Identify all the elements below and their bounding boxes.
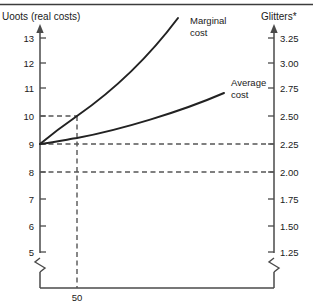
left-tick-label-5: 5 (29, 247, 34, 258)
left-tick-label-9: 9 (29, 139, 34, 150)
right-axis-title: Glitters* (261, 11, 297, 22)
left-tick-label-6: 6 (29, 221, 34, 232)
left-tick-label-11: 11 (24, 83, 34, 94)
right-y-axis: 3.25 3.00 2.75 2.50 2.25 2.00 1.75 1.50 … (268, 24, 299, 288)
left-tick-label-10: 10 (23, 111, 34, 122)
x-tick-label-50: 50 (72, 292, 83, 303)
right-tick-label-200: 2.00 (280, 167, 299, 178)
right-tick-label-175: 1.75 (280, 194, 299, 205)
right-tick-label-225: 2.25 (280, 139, 299, 150)
left-axis-title: Uoots (real costs) (2, 11, 80, 22)
left-tick-label-8: 8 (29, 167, 34, 178)
right-tick-label-275: 2.75 (280, 83, 299, 94)
left-tick-label-7: 7 (29, 194, 34, 205)
right-tick-label-125: 1.25 (280, 247, 299, 258)
average-cost-label-line1: Average (231, 77, 266, 88)
right-tick-label-325: 3.25 (280, 33, 299, 44)
right-tick-label-250: 2.50 (280, 111, 299, 122)
left-tick-label-12: 12 (23, 58, 34, 69)
right-axis-arrowhead (270, 24, 277, 33)
average-cost-label-line2: cost (231, 89, 249, 100)
marginal-cost-label-line1: Marginal (190, 15, 226, 26)
left-tick-label-13: 13 (23, 33, 34, 44)
left-y-axis: 13 12 11 10 9 8 7 6 5 (23, 24, 46, 288)
cost-curves-figure: Uoots (real costs) Glitters* 13 12 11 10 (0, 0, 313, 303)
marginal-cost-label-line2: cost (190, 27, 208, 38)
left-axis-arrowhead (36, 24, 43, 33)
right-axis-break-icon (269, 258, 279, 272)
left-axis-break-icon (35, 258, 45, 272)
right-tick-label-300: 3.00 (280, 58, 299, 69)
average-cost-curve (40, 93, 224, 144)
marginal-cost-curve (40, 18, 178, 144)
right-tick-label-150: 1.50 (280, 221, 299, 232)
